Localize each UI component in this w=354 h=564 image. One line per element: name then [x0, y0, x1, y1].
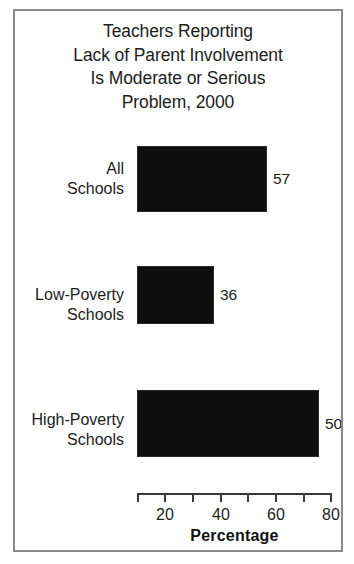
x-axis-tick-40 [220, 493, 222, 502]
x-axis-tick-70 [303, 493, 305, 502]
category-label-low-poverty-schools: Low-Poverty Schools [35, 285, 124, 325]
category-label-line-2: Schools [67, 179, 124, 199]
x-axis-tick-labels: 20 40 60 80 [137, 505, 332, 525]
chart-frame: Teachers Reporting Lack of Parent Involv… [13, 9, 343, 552]
chart-title-line-2: Lack of Parent Involvement [15, 44, 341, 68]
x-axis-title: Percentage [137, 527, 332, 545]
bar-low-poverty-schools [137, 266, 214, 324]
x-axis-tick-label-20: 20 [156, 505, 174, 524]
category-label-line-2: Schools [32, 430, 124, 450]
x-axis-tick-label-40: 40 [212, 505, 230, 524]
x-axis-tick-50 [247, 493, 249, 502]
category-label-line-1: High-Poverty [32, 410, 124, 430]
x-axis-tick-60 [275, 493, 277, 502]
category-label-all-schools: All Schools [67, 159, 124, 199]
chart-title: Teachers Reporting Lack of Parent Involv… [15, 20, 341, 114]
bar-high-poverty-schools [137, 390, 319, 457]
x-axis-tick-80 [330, 493, 332, 502]
bar-value-low-poverty-schools: 36 [220, 286, 237, 304]
category-label-line-2: Schools [35, 305, 124, 325]
x-axis-tick-label-80: 80 [322, 505, 340, 524]
x-axis-tick-label-60: 60 [267, 505, 285, 524]
bar-all-schools [137, 146, 267, 212]
category-label-line-1: Low-Poverty [35, 285, 124, 305]
chart-title-line-3: Is Moderate or Serious [15, 67, 341, 91]
bar-value-high-poverty-schools: 50 [325, 415, 342, 433]
category-label-line-1: All [67, 159, 124, 179]
chart-title-line-1: Teachers Reporting [15, 20, 341, 44]
x-axis [137, 493, 332, 503]
bar-value-all-schools: 57 [273, 170, 290, 188]
category-label-high-poverty-schools: High-Poverty Schools [32, 410, 124, 450]
chart-title-line-4: Problem, 2000 [15, 91, 341, 115]
x-axis-tick-20 [164, 493, 166, 502]
x-axis-tick-30 [192, 493, 194, 502]
x-axis-tick-10 [137, 493, 139, 502]
